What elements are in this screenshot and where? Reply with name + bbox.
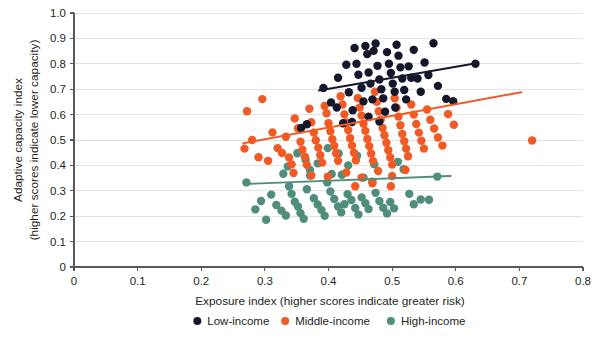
y-tick-label: 0.2 bbox=[50, 210, 66, 222]
data-point bbox=[404, 62, 412, 70]
data-point bbox=[330, 195, 338, 203]
y-tick-label: 0.7 bbox=[50, 83, 66, 95]
data-point bbox=[337, 208, 345, 216]
data-point bbox=[354, 210, 362, 218]
data-point bbox=[394, 51, 402, 59]
data-point bbox=[257, 197, 265, 205]
data-point bbox=[264, 157, 272, 165]
data-point bbox=[297, 124, 305, 132]
data-point bbox=[365, 142, 373, 150]
data-point bbox=[420, 58, 428, 66]
data-point bbox=[444, 110, 452, 118]
data-point bbox=[350, 44, 358, 52]
data-point bbox=[400, 137, 408, 145]
data-point bbox=[344, 126, 352, 134]
y-tick-label: 0.8 bbox=[50, 58, 66, 70]
data-point bbox=[381, 108, 389, 116]
data-point bbox=[371, 189, 379, 197]
data-point bbox=[382, 139, 390, 147]
y-tick-label: 0 bbox=[60, 261, 66, 273]
data-point bbox=[344, 161, 352, 169]
data-point bbox=[334, 74, 342, 82]
data-point bbox=[385, 60, 393, 68]
legend-label: High-income bbox=[401, 315, 466, 327]
legend-marker-icon bbox=[281, 317, 289, 325]
data-point bbox=[303, 185, 311, 193]
data-point bbox=[374, 167, 382, 175]
data-point bbox=[434, 133, 442, 141]
y-tick-label: 0.5 bbox=[50, 134, 66, 146]
x-tick-label: 0.8 bbox=[575, 275, 591, 287]
y-axis-title-line2: (higher scores indicate lower capacity) bbox=[27, 40, 41, 241]
data-point bbox=[287, 160, 295, 168]
data-point bbox=[287, 190, 295, 198]
data-point bbox=[391, 103, 399, 111]
data-point bbox=[357, 83, 365, 91]
data-point bbox=[258, 95, 266, 103]
data-point bbox=[364, 68, 372, 76]
data-point bbox=[361, 127, 369, 135]
chart-background bbox=[0, 0, 601, 341]
legend-label: Low-income bbox=[207, 315, 269, 327]
x-tick-label: 0.5 bbox=[384, 275, 400, 287]
data-point bbox=[430, 124, 438, 132]
data-point bbox=[396, 63, 404, 71]
data-point bbox=[369, 157, 377, 165]
data-point bbox=[346, 134, 354, 142]
data-point bbox=[450, 121, 458, 129]
data-point bbox=[402, 144, 410, 152]
data-point bbox=[299, 215, 307, 223]
data-point bbox=[386, 153, 394, 161]
scatter-chart: 00.10.20.30.40.50.60.70.80.91.0 00.10.20… bbox=[0, 0, 601, 341]
data-point bbox=[334, 157, 342, 165]
data-point bbox=[303, 161, 311, 169]
y-tick-label: 1.0 bbox=[50, 7, 66, 19]
data-point bbox=[312, 136, 320, 144]
y-tick-label: 0.6 bbox=[50, 109, 66, 121]
data-point bbox=[380, 131, 388, 139]
data-point bbox=[301, 153, 309, 161]
legend-item-middle-income[interactable]: Middle-income bbox=[281, 315, 370, 327]
data-point bbox=[352, 156, 360, 164]
data-point bbox=[305, 105, 313, 113]
data-point bbox=[254, 153, 262, 161]
x-tick-label: 0.7 bbox=[511, 275, 527, 287]
data-point bbox=[333, 103, 341, 111]
data-point bbox=[420, 144, 428, 152]
data-point bbox=[289, 169, 297, 177]
data-point bbox=[324, 172, 332, 180]
data-point bbox=[282, 211, 290, 219]
data-point bbox=[242, 178, 250, 186]
data-point bbox=[330, 142, 338, 150]
data-point bbox=[383, 48, 391, 56]
data-point bbox=[354, 71, 362, 79]
x-tick-label: 0.2 bbox=[193, 275, 209, 287]
data-point bbox=[410, 46, 418, 54]
data-point bbox=[402, 95, 410, 103]
data-point bbox=[373, 62, 381, 70]
data-point bbox=[291, 114, 299, 122]
data-point bbox=[348, 141, 356, 149]
x-axis-title: Exposure index (higher scores indicate g… bbox=[195, 294, 465, 308]
data-point bbox=[388, 160, 396, 168]
data-point bbox=[389, 79, 397, 87]
data-point bbox=[410, 200, 418, 208]
data-point bbox=[368, 179, 376, 187]
data-point bbox=[307, 171, 315, 179]
data-point bbox=[340, 200, 348, 208]
data-point bbox=[278, 149, 286, 157]
data-point bbox=[345, 88, 353, 96]
data-point bbox=[262, 216, 270, 224]
data-point bbox=[361, 42, 369, 50]
data-point bbox=[368, 95, 376, 103]
data-point bbox=[340, 110, 348, 118]
data-point bbox=[251, 205, 259, 213]
data-point bbox=[404, 152, 412, 160]
data-point bbox=[243, 107, 251, 115]
data-point bbox=[267, 190, 275, 198]
data-point bbox=[348, 106, 356, 114]
data-point bbox=[326, 187, 334, 195]
x-tick-label: 0.6 bbox=[448, 275, 464, 287]
data-point bbox=[369, 47, 377, 55]
data-point bbox=[390, 204, 398, 212]
